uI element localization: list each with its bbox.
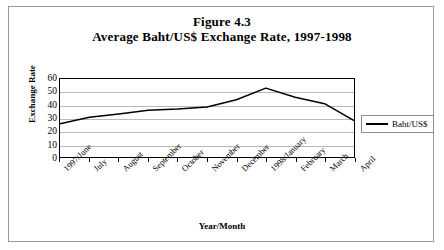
y-tick-label: 30 [48,113,58,123]
x-tick-label: March [328,166,335,173]
x-tick-label: December [239,166,246,173]
x-tick [237,158,238,162]
plot-area [59,78,355,158]
x-tick [89,158,90,162]
y-tick-label: 40 [48,100,58,110]
legend-label: Baht/US$ [392,119,428,129]
figure-number: Figure 4.3 [9,14,435,29]
x-tick-label: August [121,166,128,173]
x-axis-title: Year/Month [9,221,435,231]
series-line [60,88,354,124]
y-tick-label: 20 [48,126,58,136]
legend: Baht/US$ [361,115,434,133]
x-tick [207,158,208,162]
x-tick [355,158,356,162]
x-tick [296,158,297,162]
figure-container: Figure 4.3 Average Baht/US$ Exchange Rat… [8,6,434,242]
x-tick [148,158,149,162]
x-tick-label: April [357,166,364,173]
x-tick-label: 1998/January [269,166,276,173]
x-tick-label: July [91,166,98,173]
x-tick [325,158,326,162]
x-tick-label: October [180,166,187,173]
y-axis-tick-labels: 0102030405060 [35,72,57,164]
x-tick [59,158,60,162]
y-tick-label: 50 [48,86,58,96]
x-tick-label: September [150,166,157,173]
y-tick-label: 60 [48,73,58,83]
figure-title: Average Baht/US$ Exchange Rate, 1997-199… [9,29,435,45]
x-tick [177,158,178,162]
legend-line-swatch [366,123,388,125]
x-tick-label: November [209,166,216,173]
x-tick-label: 1997/June [61,166,68,173]
y-tick-label: 10 [48,140,58,150]
figure-title-block: Figure 4.3 Average Baht/US$ Exchange Rat… [9,14,435,45]
x-tick [118,158,119,162]
series-baht-us-dollar [60,79,354,157]
y-tick-label: 0 [52,153,57,163]
x-tick-label: February [298,166,305,173]
x-tick [266,158,267,162]
